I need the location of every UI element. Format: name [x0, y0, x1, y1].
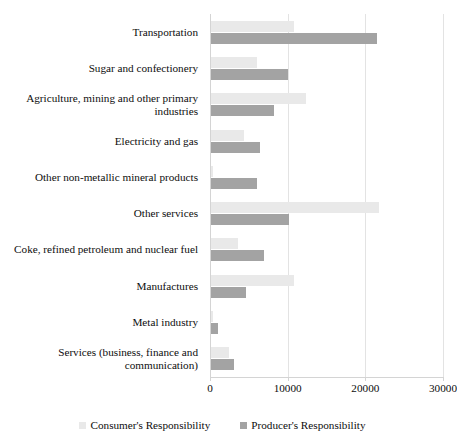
- bar-group: [210, 21, 443, 44]
- bar-group: [210, 166, 443, 189]
- bar-consumer: [211, 57, 257, 68]
- bar-producer: [211, 250, 264, 261]
- category-label: Manufactures: [0, 280, 198, 293]
- legend-swatch-icon: [79, 422, 86, 429]
- bar-consumer: [211, 93, 306, 104]
- bar-producer: [211, 214, 289, 225]
- bar-consumer: [211, 275, 294, 286]
- bar-producer: [211, 142, 260, 153]
- category-label: Transportation: [0, 26, 198, 39]
- bar-group: [210, 347, 443, 370]
- category-label: Services (business, finance and communic…: [0, 346, 198, 371]
- legend-label: Producer's Responsibility: [251, 418, 365, 432]
- bar-consumer: [211, 238, 238, 249]
- category-label: Metal industry: [0, 316, 198, 329]
- bar-consumer: [211, 21, 294, 32]
- bar-group: [210, 311, 443, 334]
- category-label: Sugar and confectionery: [0, 62, 198, 75]
- bar-consumer: [211, 130, 244, 141]
- bar-group: [210, 202, 443, 225]
- legend-entry[interactable]: Consumer's Responsibility: [79, 418, 210, 432]
- bar-producer: [211, 178, 257, 189]
- x-axis-tick-label: 10000: [274, 381, 302, 395]
- bar-group: [210, 57, 443, 80]
- bar-consumer: [211, 347, 229, 358]
- legend-label: Consumer's Responsibility: [90, 418, 210, 432]
- bar-producer: [211, 287, 246, 298]
- category-label: Other services: [0, 207, 198, 220]
- category-label-column: TransportationSugar and confectioneryAgr…: [0, 14, 204, 377]
- bar-producer: [211, 359, 234, 370]
- bar-group: [210, 238, 443, 261]
- bar-producer: [211, 105, 274, 116]
- x-axis-tick-label: 30000: [429, 381, 457, 395]
- bar-group: [210, 130, 443, 153]
- bar-producer: [211, 33, 377, 44]
- category-label: Electricity and gas: [0, 135, 198, 148]
- bar-consumer: [211, 166, 213, 177]
- gridline: [443, 14, 444, 377]
- bar-consumer: [211, 202, 379, 213]
- plot-area: [210, 14, 443, 377]
- bar-producer: [211, 69, 288, 80]
- category-label: Other non-metallic mineral products: [0, 171, 198, 184]
- legend-entry[interactable]: Producer's Responsibility: [240, 418, 365, 432]
- x-axis-line: [210, 377, 443, 378]
- bar-group: [210, 275, 443, 298]
- bar-consumer: [211, 311, 213, 322]
- chart-legend: Consumer's ResponsibilityProducer's Resp…: [0, 415, 445, 435]
- bar-group: [210, 93, 443, 116]
- category-label: Agriculture, mining and other primary in…: [0, 92, 198, 117]
- x-axis-tick-labels: 0100002000030000: [210, 381, 443, 397]
- x-axis-tick-label: 0: [207, 381, 213, 395]
- category-label: Coke, refined petroleum and nuclear fuel: [0, 243, 198, 256]
- x-axis-tick-label: 20000: [351, 381, 379, 395]
- bar-producer: [211, 323, 218, 334]
- legend-swatch-icon: [240, 422, 247, 429]
